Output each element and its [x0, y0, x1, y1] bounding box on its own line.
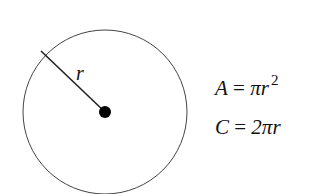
area-symbol: A: [215, 76, 228, 100]
exponent: 2: [271, 72, 279, 88]
equals-sign: =: [234, 115, 246, 139]
area-expression: πr: [250, 76, 269, 100]
area-formula: A = πr2: [215, 76, 278, 101]
center-point: [99, 106, 111, 118]
circumference-formula: C = 2πr: [215, 115, 281, 140]
radius-label: r: [76, 62, 84, 85]
radius-line: [41, 51, 105, 112]
circumference-expression: 2πr: [251, 115, 280, 139]
circumference-symbol: C: [215, 115, 229, 139]
equals-sign: =: [233, 76, 245, 100]
